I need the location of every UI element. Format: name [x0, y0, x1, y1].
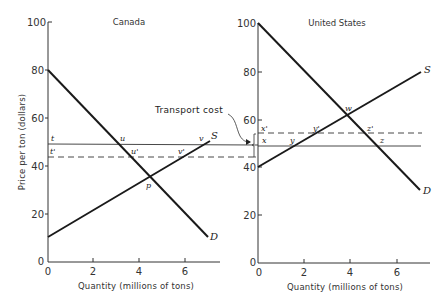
us-label-z-prime: z' — [366, 124, 373, 133]
us-y-tick-80: 80 — [243, 67, 256, 78]
us-label-y-prime: y' — [312, 124, 320, 133]
transport-cost-annotation: Transport cost — [154, 105, 256, 157]
canada-label-u-prime: u' — [131, 147, 138, 156]
us-x-tick-0: 0 — [256, 267, 262, 278]
canada-x-tick-2: 2 — [90, 266, 96, 277]
canada-y-tick-20: 20 — [31, 209, 44, 220]
transport-cost-label: Transport cost — [154, 105, 223, 115]
us-label-x-prime: x' — [261, 124, 268, 133]
canada-x-ticks — [93, 258, 185, 262]
us-panel: 100 80 60 40 20 0 0 2 4 6 Quantity (mill… — [237, 18, 431, 292]
canada-x-axis-title: Quantity (millions of tons) — [78, 281, 194, 291]
us-supply-curve — [258, 72, 421, 167]
transport-cost-brace — [252, 134, 256, 157]
canada-label-v-prime: v' — [178, 147, 185, 156]
canada-label-p: p — [146, 181, 151, 190]
us-demand-curve — [258, 23, 420, 190]
arrowhead-icon — [246, 139, 251, 145]
canada-x-tick-4: 4 — [136, 266, 142, 277]
us-label-w: w — [345, 104, 352, 113]
canada-y-tick-40: 40 — [31, 161, 44, 172]
us-y-tick-100: 100 — [237, 18, 256, 29]
canada-y-tick-0: 0 — [38, 256, 44, 267]
us-panel-title: United States — [308, 18, 366, 28]
canada-panel-title: Canada — [113, 17, 145, 27]
canada-label-t-prime: t' — [50, 147, 55, 156]
us-x-tick-4: 4 — [347, 267, 353, 278]
canada-demand-label: D — [209, 231, 218, 242]
us-x-tick-2: 2 — [301, 267, 307, 278]
canada-label-u: u — [120, 134, 125, 143]
us-x-axis-title: Quantity (millions of tons) — [287, 282, 403, 292]
us-supply-label: S — [424, 64, 431, 75]
canada-x-tick-0: 0 — [45, 266, 51, 277]
canada-label-v: v — [199, 134, 204, 143]
trade-diagram: 100 80 60 40 20 0 0 2 4 6 Quantity (mill… — [0, 0, 447, 303]
canada-panel: 100 80 60 40 20 0 0 2 4 6 Quantity (mill… — [17, 17, 258, 291]
canada-supply-label: S — [211, 130, 218, 141]
us-y-tick-40: 40 — [243, 162, 256, 173]
canada-y-tick-60: 60 — [31, 113, 44, 124]
us-label-x: x — [262, 136, 267, 145]
us-y-tick-20: 20 — [243, 210, 256, 221]
canada-y-axis-title: Price per ton (dollars) — [17, 94, 27, 191]
us-demand-label: D — [422, 185, 431, 196]
canada-label-t: t — [51, 134, 55, 143]
canada-price-line-t — [48, 144, 258, 145]
us-x-tick-6: 6 — [394, 267, 400, 278]
canada-x-tick-6: 6 — [182, 266, 188, 277]
us-label-z: z — [379, 136, 385, 145]
us-x-ticks — [304, 259, 397, 263]
us-label-y: y — [289, 136, 295, 145]
canada-y-tick-100: 100 — [27, 17, 46, 28]
canada-y-tick-80: 80 — [31, 65, 44, 76]
us-y-tick-60: 60 — [243, 115, 256, 126]
